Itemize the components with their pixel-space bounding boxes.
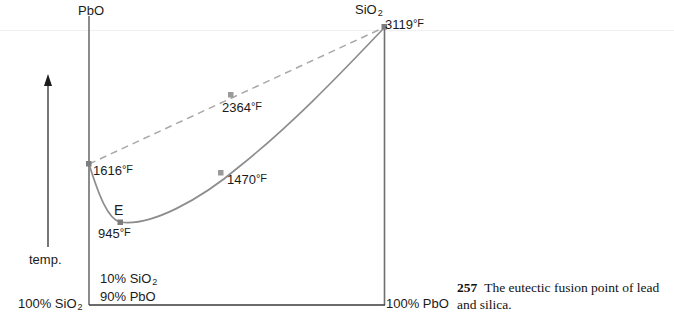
caption-number: 257 (457, 280, 484, 295)
degree-unit-1616: °F (122, 163, 133, 175)
value-1470: 1470 (227, 172, 256, 187)
label-sio2-top: SiO2 (355, 3, 383, 17)
label-sio2-top-sub: 2 (377, 8, 383, 18)
marker-eutectic-945 (118, 220, 124, 226)
value-2364: 2364 (222, 100, 251, 115)
marker-1470 (218, 170, 224, 176)
ideal-mixing-dashed-line (89, 27, 385, 164)
composition-line-1-sub: 2 (151, 277, 157, 287)
figure-caption: 257The eutectic fusion point of lead and… (457, 279, 662, 314)
liquidus-curve (89, 27, 385, 223)
value-945: 945 (98, 226, 120, 241)
caption-text: The eutectic fusion point of lead and si… (457, 280, 659, 312)
degree-unit-1470: °F (256, 172, 267, 184)
label-100-sio2-sub: 2 (77, 302, 83, 312)
label-temp-945: 945°F (98, 227, 131, 241)
label-pbo-top: PbO (78, 4, 104, 18)
label-temp-1616: 1616°F (93, 164, 133, 178)
composition-line-1-main: 10% SiO (100, 271, 151, 286)
label-composition-note: 10% SiO2 90% PbO (100, 272, 157, 303)
label-sio2-top-main: SiO (355, 2, 377, 17)
label-100-sio2-main: 100% SiO (18, 296, 77, 311)
temp-axis-arrow (44, 74, 52, 247)
value-3119: 3119 (385, 17, 413, 32)
label-axis-100-sio2: 100% SiO2 (18, 297, 83, 311)
label-temp-axis: temp. (29, 253, 62, 267)
degree-unit-945: °F (120, 226, 131, 238)
degree-unit-3119: °F (413, 17, 424, 29)
marker-1616 (86, 161, 92, 167)
figure-container: PbO SiO2 3119°F 2364°F 1616°F 1470°F E 9… (0, 0, 674, 331)
degree-unit-2364: °F (251, 100, 262, 112)
label-axis-100-pbo: 100% PbO (386, 297, 449, 311)
label-temp-3119: 3119°F (385, 18, 424, 32)
label-temp-1470: 1470°F (227, 173, 267, 187)
marker-2364 (228, 92, 234, 98)
value-1616: 1616 (93, 163, 122, 178)
label-temp-2364: 2364°F (222, 101, 262, 115)
composition-line-2: 90% PbO (100, 290, 157, 304)
composition-line-1: 10% SiO2 (100, 271, 157, 286)
label-eutectic-e: E (114, 203, 123, 218)
